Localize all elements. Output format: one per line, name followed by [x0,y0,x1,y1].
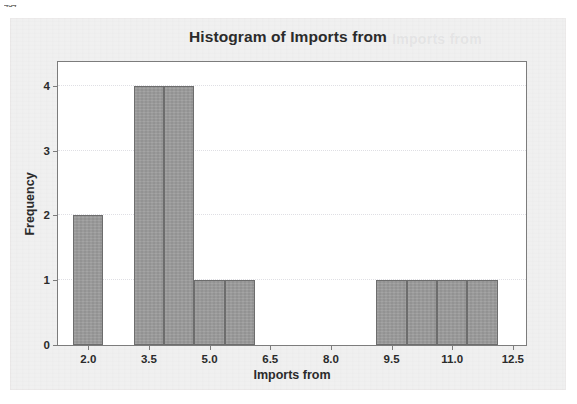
y-tick-mark [53,280,58,281]
histogram-bar [164,86,194,345]
y-tick-label: 1 [44,274,50,286]
y-tick-label: 0 [44,339,50,351]
x-tick-mark [513,345,514,350]
x-tick-mark [392,345,393,350]
chart-title-ghost-artifact: Imports from [392,31,482,47]
x-tick-label: 11.0 [441,353,463,365]
page-number: 434 [4,0,16,9]
histogram-bar [467,280,497,345]
x-tick-label: 6.5 [262,353,278,365]
histogram-bar [73,215,103,345]
y-tick-label: 3 [44,145,50,157]
x-tick-mark [331,345,332,350]
histogram-bars [58,62,526,345]
x-tick-label: 12.5 [502,353,524,365]
histogram-bar [134,86,164,345]
x-tick-mark [270,345,271,350]
x-axis-label: Imports from [57,368,527,382]
x-tick-label: 2.0 [80,353,96,365]
x-tick-label: 5.0 [202,353,218,365]
y-tick-mark [53,86,58,87]
y-axis-label-text: Frequency [23,172,37,235]
plot-area: 01234 2.03.55.06.58.09.511.012.5 [57,61,527,346]
histogram-bar [437,280,467,345]
x-tick-mark [210,345,211,350]
x-tick-label: 9.5 [384,353,400,365]
y-tick-mark [53,215,58,216]
chart-title: Histogram of Imports from [10,28,566,46]
x-tick-mark [88,345,89,350]
x-tick-mark [452,345,453,350]
histogram-bar [376,280,406,345]
histogram-bar [407,280,437,345]
y-tick-label: 2 [44,209,50,221]
x-tick-label: 3.5 [141,353,157,365]
histogram-bar [194,280,224,345]
y-tick-mark [53,151,58,152]
y-axis-label: Frequency [22,61,38,346]
x-tick-label: 8.0 [323,353,339,365]
x-tick-mark [149,345,150,350]
y-tick-mark [53,345,58,346]
y-tick-label: 4 [44,80,50,92]
histogram-bar [225,280,255,345]
figure-card: Histogram of Imports from Imports from F… [10,18,566,390]
